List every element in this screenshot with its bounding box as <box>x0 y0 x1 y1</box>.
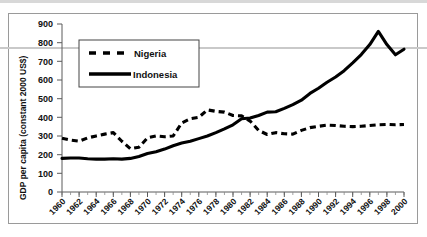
x-tick-label: 1998 <box>372 196 393 217</box>
x-tick-label: 1992 <box>321 196 342 217</box>
x-tick-label: 1972 <box>150 196 171 217</box>
y-tick-0: 0 <box>48 187 62 197</box>
y-tick-label: 300 <box>38 131 53 141</box>
y-tick-700: 700 <box>38 57 62 67</box>
x-tick-label: 1994 <box>338 196 359 217</box>
chart-figure: GDP per capita (constant 2000 US$) 0 100… <box>0 0 427 237</box>
chart-legend: Nigeria Indonesia <box>79 40 199 87</box>
y-tick-label: 200 <box>38 150 53 160</box>
x-tick-label: 1968 <box>115 196 136 217</box>
y-tick-label: 100 <box>38 169 53 179</box>
x-tick-label: 1990 <box>303 196 324 217</box>
x-tick-label: 2000 <box>389 196 410 217</box>
y-tick-label: 0 <box>48 187 53 197</box>
x-tick-label: 1996 <box>355 196 376 217</box>
x-tick-label: 1964 <box>81 196 102 217</box>
x-tick-label: 1984 <box>252 196 273 217</box>
y-tick-label: 800 <box>38 38 53 48</box>
y-tick-500: 500 <box>38 94 62 104</box>
x-tick-label: 1986 <box>269 196 290 217</box>
x-tick-label: 1962 <box>64 196 85 217</box>
y-tick-200: 200 <box>38 150 62 160</box>
x-tick-label: 1980 <box>218 196 239 217</box>
x-tick-label: 1988 <box>286 196 307 217</box>
y-tick-800: 800 <box>38 38 62 48</box>
x-tick-label: 1978 <box>201 196 222 217</box>
y-tick-400: 400 <box>38 113 62 123</box>
line-chart: GDP per capita (constant 2000 US$) 0 100… <box>0 0 427 237</box>
series-line-nigeria <box>62 110 404 149</box>
y-tick-label: 500 <box>38 94 53 104</box>
x-tick-label: 1982 <box>235 196 256 217</box>
x-tick-label: 1970 <box>132 196 153 217</box>
x-tick-label: 1960 <box>47 196 68 217</box>
legend-label-indonesia: Indonesia <box>133 69 178 80</box>
x-tick-group: 1960196219641966196819701972197419761978… <box>47 192 410 217</box>
y-tick-100: 100 <box>38 169 62 179</box>
y-axis-title: GDP per capita (constant 2000 US$) <box>18 55 28 200</box>
y-tick-label: 900 <box>38 19 53 29</box>
y-tick-group: 0 100 200 300 400 500 <box>38 19 62 197</box>
y-tick-600: 600 <box>38 75 62 85</box>
y-tick-label: 700 <box>38 57 53 67</box>
x-tick-label: 1974 <box>167 196 188 217</box>
y-tick-label: 600 <box>38 75 53 85</box>
y-tick-300: 300 <box>38 131 62 141</box>
y-tick-label: 400 <box>38 113 53 123</box>
x-tick-label: 1966 <box>98 196 119 217</box>
y-tick-900: 900 <box>38 19 62 29</box>
x-tick-label: 1976 <box>184 196 205 217</box>
legend-label-nigeria: Nigeria <box>134 48 167 59</box>
